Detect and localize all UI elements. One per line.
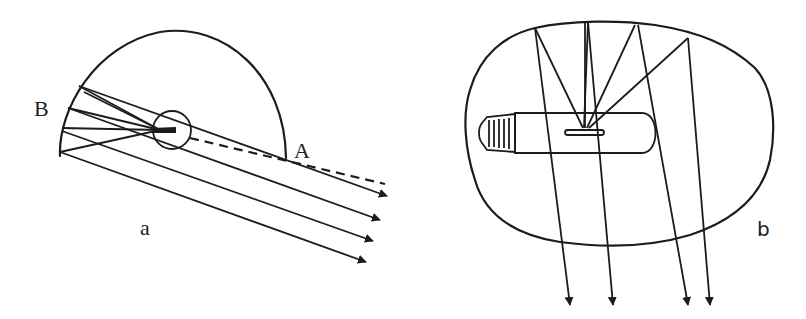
reflected-rays-b [535,22,710,305]
caption-a: a [140,215,150,240]
panel-b: b [465,22,773,305]
panel-a: B A a [34,31,387,262]
caption-b: b [757,217,770,241]
lamp-screw-base [479,114,515,152]
optics-figure: B A a [0,0,806,319]
label-point-a: A [294,138,310,163]
irregular-reflector [465,22,773,246]
label-point-b: B [34,96,49,121]
